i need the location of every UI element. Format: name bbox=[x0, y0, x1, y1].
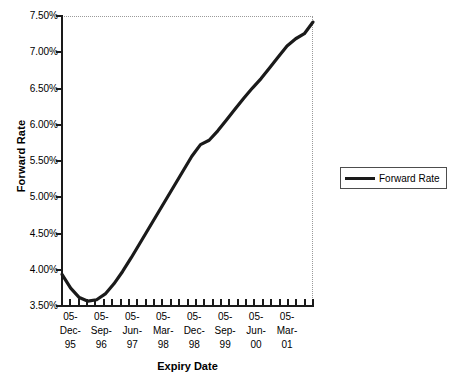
y-tick-label: 4.50% bbox=[20, 229, 58, 239]
x-tick-mark bbox=[245, 299, 247, 306]
y-tick-label: 5.50% bbox=[20, 156, 58, 166]
x-tick-mark bbox=[228, 299, 230, 306]
x-tick-mark bbox=[195, 299, 197, 306]
x-tick-mark bbox=[270, 299, 272, 306]
x-tick-mark bbox=[61, 299, 63, 306]
x-tick-mark bbox=[212, 299, 214, 306]
x-tick-mark bbox=[304, 299, 306, 306]
x-tick-mark bbox=[120, 299, 122, 306]
x-tick-mark bbox=[279, 299, 281, 306]
x-tick-mark bbox=[187, 299, 189, 306]
series-line-forward-rate bbox=[62, 17, 313, 307]
x-tick-mark bbox=[145, 299, 147, 306]
x-tick-mark bbox=[78, 299, 80, 306]
y-tick-label: 7.50% bbox=[20, 11, 58, 21]
y-tick-mark bbox=[56, 88, 63, 90]
y-tick-label: 6.00% bbox=[20, 120, 58, 130]
x-tick-mark bbox=[237, 299, 239, 306]
y-tick-mark bbox=[56, 124, 63, 126]
y-tick-mark bbox=[56, 15, 63, 17]
x-tick-mark bbox=[111, 299, 113, 306]
x-tick-mark bbox=[86, 299, 88, 306]
x-tick-label: 05-Mar-01 bbox=[264, 310, 310, 352]
forward-rate-chart: Forward Rate 3.50%4.00%4.50%5.00%5.50%6.… bbox=[0, 0, 453, 383]
x-tick-mark bbox=[94, 299, 96, 306]
y-tick-label: 6.50% bbox=[20, 84, 58, 94]
x-tick-mark bbox=[287, 299, 289, 306]
x-tick-label-line: 05- bbox=[264, 310, 310, 324]
x-tick-mark bbox=[178, 299, 180, 306]
x-tick-mark bbox=[262, 299, 264, 306]
y-tick-mark bbox=[56, 196, 63, 198]
x-tick-mark bbox=[220, 299, 222, 306]
y-tick-label: 5.00% bbox=[20, 192, 58, 202]
y-tick-mark bbox=[56, 51, 63, 53]
y-tick-mark bbox=[56, 233, 63, 235]
x-tick-mark bbox=[312, 299, 314, 306]
x-tick-mark bbox=[153, 299, 155, 306]
x-tick-mark bbox=[295, 299, 297, 306]
y-tick-mark bbox=[56, 269, 63, 271]
x-tick-mark bbox=[170, 299, 172, 306]
x-tick-mark bbox=[69, 299, 71, 306]
x-tick-mark bbox=[128, 299, 130, 306]
y-tick-mark bbox=[56, 160, 63, 162]
x-tick-label-line: Mar- bbox=[264, 324, 310, 338]
x-tick-mark bbox=[253, 299, 255, 306]
x-tick-mark bbox=[103, 299, 105, 306]
y-tick-label: 4.00% bbox=[20, 265, 58, 275]
x-tick-mark bbox=[136, 299, 138, 306]
x-tick-mark bbox=[161, 299, 163, 306]
legend-label-forward-rate: Forward Rate bbox=[379, 173, 440, 184]
legend-swatch-forward-rate bbox=[345, 177, 375, 180]
x-axis-title: Expiry Date bbox=[62, 360, 313, 372]
x-tick-mark bbox=[203, 299, 205, 306]
legend[interactable]: Forward Rate bbox=[340, 167, 447, 189]
y-tick-label: 7.00% bbox=[20, 47, 58, 57]
x-tick-label-line: 01 bbox=[264, 338, 310, 352]
plot-area bbox=[62, 16, 313, 306]
forward-rate-polyline bbox=[62, 22, 313, 301]
